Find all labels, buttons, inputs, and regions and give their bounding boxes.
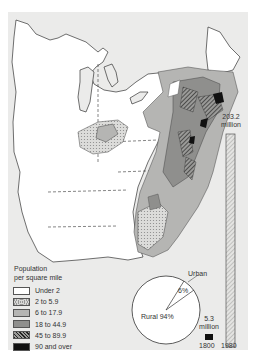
legend-swatch-2-to-5-9 [13, 298, 30, 306]
pie-rural-label: Rural 94% [141, 313, 174, 321]
bar-1980-value: 203.2 million [214, 113, 248, 129]
legend-swatch-18-to-44-9 [13, 320, 30, 328]
legend-item: 45 to 89.9 [13, 330, 72, 341]
bar-1800-value: 5.3 million [194, 315, 224, 331]
pie-chart [132, 275, 200, 344]
map-figure: Population per square mile Under 2 2 to … [8, 12, 248, 350]
bar-1800-year: 1800 [199, 342, 215, 350]
legend-item: 90 and over [13, 341, 72, 352]
bar-1980-year: 1980 [221, 342, 237, 350]
legend-swatch-45-to-89-9 [13, 331, 30, 339]
legend-item: Under 2 [13, 285, 72, 296]
maine-region [206, 27, 240, 74]
bar-1980 [226, 134, 235, 347]
legend-item: 6 to 17.9 [13, 307, 72, 318]
bar-1800 [205, 334, 213, 340]
pie-urban-percent: 6% [178, 287, 188, 295]
legend-swatch-90-and-over [13, 343, 30, 351]
pie-urban-label: Urban [188, 270, 207, 278]
legend-item: 18 to 44.9 [13, 319, 72, 330]
legend: Under 2 2 to 5.9 6 to 17.9 18 to 44.9 45… [13, 285, 72, 352]
legend-swatch-under-2 [13, 287, 30, 295]
legend-item: 2 to 5.9 [13, 296, 72, 307]
legend-title: Population per square mile [14, 265, 62, 282]
legend-swatch-6-to-17-9 [13, 309, 30, 317]
